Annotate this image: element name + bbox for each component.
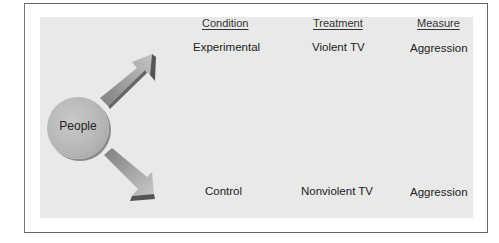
row1-condition: Experimental bbox=[193, 41, 260, 53]
arrow-down-right-icon bbox=[104, 148, 155, 201]
header-measure: Measure bbox=[417, 17, 460, 29]
people-label: People bbox=[47, 119, 109, 133]
row2-treatment: Nonviolent TV bbox=[301, 185, 373, 197]
row1-measure: Aggression bbox=[410, 42, 468, 54]
header-condition: Condition bbox=[202, 17, 248, 29]
row2-measure: Aggression bbox=[410, 186, 468, 198]
arrow-up-right-icon bbox=[100, 54, 156, 109]
people-node: People bbox=[47, 97, 109, 159]
row1-treatment: Violent TV bbox=[312, 41, 365, 53]
row2-condition: Control bbox=[205, 185, 242, 197]
header-treatment: Treatment bbox=[313, 17, 363, 29]
